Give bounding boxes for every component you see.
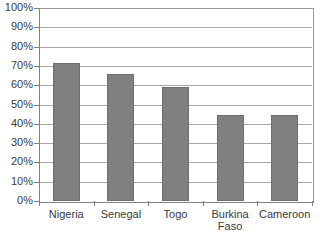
x-axis-category-label: Burkina Faso: [199, 208, 262, 232]
y-axis-tick-label: 60%: [0, 79, 33, 90]
x-axis-tick-mark: [312, 201, 313, 206]
x-axis-tick-mark: [39, 201, 40, 206]
y-axis-tick-label: 0%: [0, 195, 33, 206]
y-axis-tick-label: 10%: [0, 176, 33, 187]
y-axis-tick-label: 40%: [0, 118, 33, 129]
bar-chart: 100%90%80%70%60%50%40%30%20%10%0% Nigeri…: [0, 0, 330, 238]
y-axis-tick-label: 80%: [0, 41, 33, 52]
bar: [217, 115, 244, 201]
bar: [271, 115, 298, 201]
x-axis-tick-mark: [203, 201, 204, 206]
x-axis-tick-mark: [257, 201, 258, 206]
y-axis-tick-label: 50%: [0, 99, 33, 110]
y-axis-tick-label: 20%: [0, 156, 33, 167]
y-axis-tick-label: 90%: [0, 21, 33, 32]
x-axis-tick-mark: [148, 201, 149, 206]
bar: [162, 87, 189, 201]
x-axis-category-label: Togo: [144, 208, 207, 220]
y-axis-tick-label: 70%: [0, 60, 33, 71]
y-axis-tick-label: 30%: [0, 137, 33, 148]
bar: [53, 63, 80, 201]
bar: [107, 74, 134, 201]
y-axis-tick-label: 100%: [0, 2, 33, 13]
x-axis-category-label: Nigeria: [35, 208, 98, 220]
x-axis-category-label: Cameroon: [253, 208, 316, 220]
x-axis-tick-mark: [94, 201, 95, 206]
x-axis-category-label: Senegal: [90, 208, 153, 220]
